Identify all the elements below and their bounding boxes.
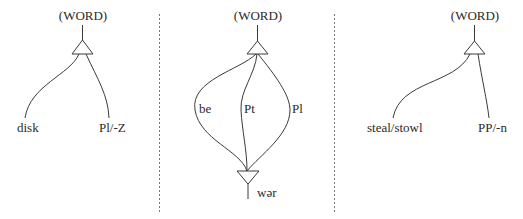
panel-2-branch-label-pt: Pt xyxy=(244,102,255,116)
panel-1-root-label: (WORD) xyxy=(59,9,107,23)
diagram-stage: (WORD) disk Pl/-Z (WORD) be Pt Pl wər (W… xyxy=(0,0,523,219)
panel-1-left-branch xyxy=(25,54,79,118)
panel-2-top-triangle xyxy=(247,41,268,54)
panel-2-bottom-triangle xyxy=(237,171,259,184)
panel-2-bottom-leaf: wər xyxy=(257,186,277,200)
panel-3-left-leaf: steal/stowl xyxy=(367,121,423,135)
panel-3-right-branch xyxy=(478,54,489,118)
panel-1-right-leaf: Pl/-Z xyxy=(99,121,126,135)
panel-2-branch-label-be: be xyxy=(199,102,211,116)
panel-1-left-leaf: disk xyxy=(17,121,39,135)
panel-3-tree xyxy=(393,25,489,118)
panel-1-triangle xyxy=(72,40,93,54)
panel-3-right-leaf: PP/-n xyxy=(478,121,507,135)
panel-1-right-branch xyxy=(86,54,109,118)
panel-3-triangle xyxy=(464,41,485,54)
panel-2-branch-label-pl: Pl xyxy=(292,102,303,116)
panel-2-root-label: (WORD) xyxy=(234,9,282,23)
panel-1-tree xyxy=(25,25,109,118)
panel-3-left-branch xyxy=(393,54,470,118)
panel-3-root-label: (WORD) xyxy=(451,9,499,23)
